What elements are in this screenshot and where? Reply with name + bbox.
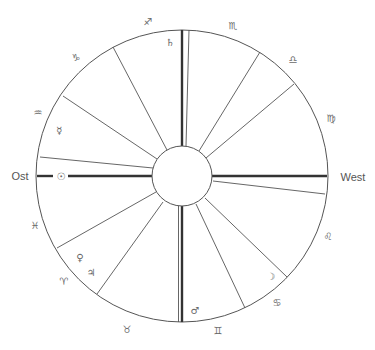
west-label: West (341, 171, 366, 183)
planet-sun-icon: ☉ (57, 171, 66, 183)
sign-aquarius-icon: ♒ (34, 107, 43, 119)
sign-pisces-icon: ♓ (31, 220, 40, 232)
sign-virgo-icon: ♍ (327, 113, 336, 125)
cusp-line (206, 84, 294, 158)
planet-jupiter-icon: ♃ (87, 267, 96, 279)
sign-aries-icon: ♈ (60, 276, 69, 288)
sign-sagittarius-icon: ♐ (144, 16, 153, 28)
cusp-line (57, 192, 156, 248)
east-label: Ost (11, 170, 28, 182)
cusp-line (97, 202, 163, 294)
planet-mars-icon: ♂ (191, 305, 200, 317)
cusp-line-mc-thin (186, 30, 189, 146)
planet-saturn-icon: ♄ (166, 37, 175, 49)
cusp-line (63, 96, 157, 159)
sign-taurus-icon: ♉ (123, 324, 132, 336)
cusp-line (205, 198, 287, 277)
planet-venus-icon: ♀ (76, 252, 83, 264)
sign-capricorn-icon: ♑ (72, 52, 81, 64)
cusp-line (40, 157, 153, 168)
cusp-line (199, 52, 260, 151)
cusp-line (213, 181, 325, 194)
planet-mercury-icon: ☿ (56, 125, 62, 137)
sign-cancer-icon: ♋ (273, 297, 282, 309)
sign-gemini-icon: ♊ (214, 325, 223, 337)
planet-moon-icon: ☽ (267, 271, 276, 283)
inner-circle (152, 146, 212, 206)
sign-leo-icon: ♌ (324, 231, 333, 243)
sign-libra-icon: ♎ (289, 54, 298, 66)
sign-scorpio-icon: ♏ (229, 20, 238, 32)
cusp-line (196, 204, 245, 308)
